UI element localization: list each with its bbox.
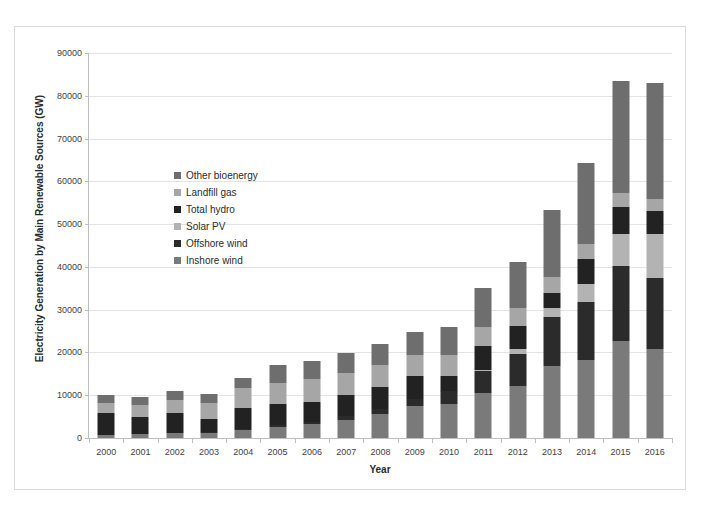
x-tick-mark (535, 438, 536, 443)
bar-segment (372, 387, 389, 409)
y-tick-label: 50000 (57, 219, 82, 229)
stacked-bar[interactable] (235, 378, 252, 438)
bar-segment (235, 388, 252, 408)
legend-item-label: Offshore wind (186, 238, 248, 249)
legend-item-label: Inshore wind (186, 255, 243, 266)
y-tick-label: 20000 (57, 347, 82, 357)
bar-slot: 2012 (501, 53, 535, 438)
x-axis-title: Year (88, 464, 672, 475)
stacked-bar[interactable] (201, 394, 218, 438)
bar-segment (406, 355, 423, 376)
legend-item-label: Total hydro (186, 204, 235, 215)
bar-segment (303, 424, 320, 438)
bar-segment (509, 308, 526, 326)
stacked-bar[interactable] (441, 327, 458, 438)
legend-swatch-icon (174, 206, 181, 213)
bar-segment (441, 355, 458, 375)
stacked-bar[interactable] (578, 163, 595, 438)
stacked-bar[interactable] (338, 353, 355, 438)
bar-segment (338, 353, 355, 372)
bar-segment (406, 406, 423, 438)
legend-swatch-icon (174, 257, 181, 264)
x-tick-mark (398, 438, 399, 443)
bar-segment (166, 433, 183, 438)
stacked-bar[interactable] (303, 361, 320, 438)
bar-segment (406, 332, 423, 355)
legend-item[interactable]: Offshore wind (174, 236, 258, 250)
x-tick-mark (603, 438, 604, 443)
stacked-bar[interactable] (646, 83, 663, 438)
stacked-bar[interactable] (372, 344, 389, 438)
stacked-bar[interactable] (269, 365, 286, 438)
bar-slot: 2007 (329, 53, 363, 438)
x-tick-label: 2003 (199, 447, 219, 457)
bar-slot: 2001 (123, 53, 157, 438)
bar-segment (578, 302, 595, 360)
stacked-bar[interactable] (612, 81, 629, 438)
x-tick-label: 2015 (611, 447, 631, 457)
legend-item[interactable]: Inshore wind (174, 253, 258, 267)
bar-segment (166, 391, 183, 400)
bar-segment (475, 346, 492, 370)
bar-segment (132, 417, 149, 435)
x-tick-mark (329, 438, 330, 443)
x-tick-label: 2002 (165, 447, 185, 457)
x-tick-mark (295, 438, 296, 443)
x-tick-mark (260, 438, 261, 443)
y-axis-title: Electricity Generation by Main Renewable… (34, 9, 45, 449)
bar-segment (543, 308, 560, 317)
legend-item[interactable]: Total hydro (174, 202, 258, 216)
bar-segment (406, 399, 423, 406)
x-tick-mark (89, 438, 90, 443)
x-tick-mark (363, 438, 364, 443)
x-tick-label: 2010 (439, 447, 459, 457)
bar-segment (338, 420, 355, 438)
stacked-bar[interactable] (132, 397, 149, 438)
bar-segment (578, 284, 595, 302)
legend-item[interactable]: Other bioenergy (174, 168, 258, 182)
y-tick-label: 0 (77, 433, 82, 443)
bar-segment (338, 373, 355, 395)
bar-segment (372, 365, 389, 387)
stacked-bar[interactable] (543, 210, 560, 438)
bar-segment (338, 395, 355, 416)
bar-segment (132, 434, 149, 438)
bar-segment (98, 435, 115, 438)
bar-segment (475, 288, 492, 327)
bar-slot: 2015 (603, 53, 637, 438)
bar-segment (646, 199, 663, 212)
stacked-bar[interactable] (509, 262, 526, 438)
bar-segment (132, 397, 149, 405)
bar-segment (646, 211, 663, 234)
bar-segment (201, 403, 218, 419)
legend-item[interactable]: Landfill gas (174, 185, 258, 199)
bar-segment (509, 386, 526, 438)
stacked-bar[interactable] (475, 288, 492, 438)
y-tick-label: 10000 (57, 390, 82, 400)
bar-segment (303, 402, 320, 422)
plot-area: 0100002000030000400005000060000700008000… (88, 53, 672, 438)
legend-item[interactable]: Solar PV (174, 219, 258, 233)
x-tick-mark (638, 438, 639, 443)
bar-slot: 2013 (535, 53, 569, 438)
x-tick-label: 2004 (233, 447, 253, 457)
bar-segment (201, 394, 218, 403)
x-tick-label: 2005 (268, 447, 288, 457)
stacked-bar[interactable] (98, 395, 115, 438)
bar-segment (201, 419, 218, 432)
x-tick-mark (192, 438, 193, 443)
bar-segment (269, 404, 286, 425)
stacked-bar[interactable] (406, 332, 423, 438)
bar-segment (98, 395, 115, 402)
bar-segment (132, 405, 149, 417)
bar-segment (578, 259, 595, 284)
stacked-bar[interactable] (166, 391, 183, 438)
bar-slot: 2016 (638, 53, 672, 438)
x-tick-label: 2000 (96, 447, 116, 457)
bar-segment (475, 393, 492, 438)
bar-segment (578, 244, 595, 259)
y-tick-label: 40000 (57, 262, 82, 272)
bar-segment (509, 354, 526, 386)
x-tick-mark (226, 438, 227, 443)
bar-segment (543, 293, 560, 308)
